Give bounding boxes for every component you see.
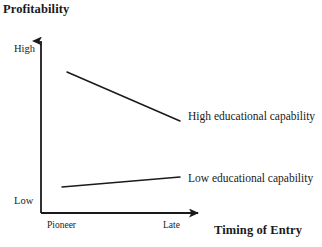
y-axis-tick-label-low: Low [14,196,33,207]
series-line-low-educational-capability [62,177,180,187]
series-label-high-educational-capability: High educational capability [188,111,315,123]
x-axis-title: Timing of Entry [214,224,302,237]
y-axis-tick-label-high: High [14,44,35,55]
x-axis-tick-label-late: Late [163,221,180,231]
series-line-high-educational-capability [67,72,180,121]
series-label-low-educational-capability: Low educational capability [188,173,313,185]
chart-title: Profitability [3,3,69,16]
profitability-timing-of-entry-chart: Profitability High Low Pioneer Late Timi… [0,0,322,247]
x-axis-tick-label-pioneer: Pioneer [47,221,76,231]
chart-plot-area [0,0,322,247]
